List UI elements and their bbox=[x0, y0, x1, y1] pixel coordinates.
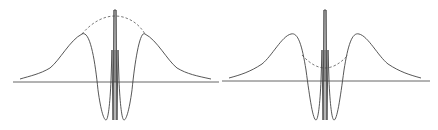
right-panel bbox=[222, 10, 430, 120]
left-curve bbox=[20, 10, 211, 120]
left-panel bbox=[13, 10, 219, 120]
diagram-canvas bbox=[0, 0, 438, 130]
